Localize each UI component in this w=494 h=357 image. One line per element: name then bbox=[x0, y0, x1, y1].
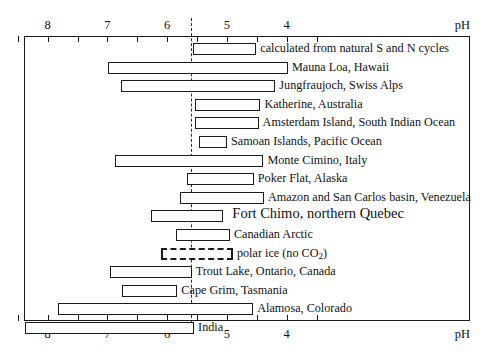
top-axis-ph-caption: pH bbox=[455, 18, 470, 33]
bar-row: Cape Grim, Tasmania bbox=[24, 283, 470, 302]
ph-range-bar bbox=[199, 136, 227, 148]
bar-label: Poker Flat, Alaska bbox=[258, 170, 348, 186]
ph-range-chart: pH 87654 pH 87654 calculated from natura… bbox=[0, 0, 494, 357]
axis-tick-label: 7 bbox=[104, 18, 110, 33]
ph-range-bar bbox=[115, 155, 263, 167]
bar-label: Amazon and San Carlos basin, Venezuela bbox=[268, 189, 471, 205]
bar-label: Trout Lake, Ontario, Canada bbox=[196, 263, 336, 279]
bar-label: Amsterdam Island, South Indian Ocean bbox=[263, 114, 456, 130]
ph-range-bar bbox=[193, 43, 256, 55]
ph-range-bar bbox=[187, 173, 254, 185]
bar-label: Cape Grim, Tasmania bbox=[181, 282, 287, 298]
axis-tick-label: 6 bbox=[164, 18, 170, 33]
axis-tick-label: 4 bbox=[284, 18, 290, 33]
ph-range-bar bbox=[58, 303, 253, 315]
axis-minor-tick bbox=[18, 36, 19, 42]
ph-range-bar bbox=[180, 192, 264, 204]
bar-label: Samoan Islands, Pacific Ocean bbox=[231, 133, 382, 149]
bar-row: Amsterdam Island, South Indian Ocean bbox=[24, 115, 470, 134]
bar-row: Jungfraujoch, Swiss Alps bbox=[24, 78, 470, 97]
bar-label: Canadian Arctic bbox=[234, 226, 313, 242]
bar-row: Monte Cimino, Italy bbox=[24, 153, 470, 172]
bar-row: Canadian Arctic bbox=[24, 227, 470, 246]
bar-label: calculated from natural S and N cycles bbox=[260, 40, 449, 56]
ph-range-bar bbox=[195, 117, 259, 129]
bar-row: India bbox=[24, 320, 470, 339]
ph-range-bar bbox=[122, 285, 177, 297]
bar-label: Fort Chimo, northern Quebec bbox=[232, 205, 404, 221]
bar-label: Mauna Loa, Hawaii bbox=[292, 59, 389, 75]
ph-range-bar bbox=[108, 62, 288, 74]
bar-row: polar ice (no CO2) bbox=[24, 246, 470, 265]
bar-row: calculated from natural S and N cycles bbox=[24, 41, 470, 60]
bar-row: Trout Lake, Ontario, Canada bbox=[24, 264, 470, 283]
bar-label: India bbox=[198, 319, 223, 335]
bar-row: Poker Flat, Alaska bbox=[24, 171, 470, 190]
ph-range-bar bbox=[151, 210, 223, 222]
ph-range-bar bbox=[25, 322, 194, 334]
ph-range-bar bbox=[121, 80, 276, 92]
ph-range-bar bbox=[176, 229, 230, 241]
bar-label: Monte Cimino, Italy bbox=[267, 152, 367, 168]
bar-row: Alamosa, Colorado bbox=[24, 301, 470, 320]
bar-label: Alamosa, Colorado bbox=[257, 300, 352, 316]
axis-minor-tick bbox=[18, 315, 19, 321]
axis-tick-label: 5 bbox=[224, 18, 230, 33]
axis-tick-label: 8 bbox=[45, 18, 51, 33]
bar-row: Fort Chimo, northern Quebec bbox=[24, 208, 470, 227]
bar-label: Katherine, Australia bbox=[264, 96, 362, 112]
bar-row: Samoan Islands, Pacific Ocean bbox=[24, 134, 470, 153]
bars-layer: calculated from natural S and N cyclesMa… bbox=[24, 36, 470, 321]
top-axis: pH 87654 bbox=[24, 18, 470, 36]
bar-label: polar ice (no CO2) bbox=[237, 245, 327, 264]
ph-range-bar bbox=[161, 248, 233, 260]
bar-row: Katherine, Australia bbox=[24, 97, 470, 116]
bar-row: Mauna Loa, Hawaii bbox=[24, 60, 470, 79]
bar-label: Jungfraujoch, Swiss Alps bbox=[279, 77, 403, 93]
ph-range-bar bbox=[110, 266, 192, 278]
ph-range-bar bbox=[195, 99, 261, 111]
